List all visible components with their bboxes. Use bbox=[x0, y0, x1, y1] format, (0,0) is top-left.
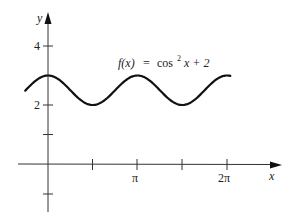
chart-canvas: y x 4 2 π 2π f(x) = cos 2 x + 2 bbox=[0, 0, 293, 220]
y-tick-label-4: 4 bbox=[34, 39, 40, 53]
function-curve bbox=[25, 76, 230, 106]
x-tick-label-pi: π bbox=[132, 171, 138, 185]
formula-exponent: 2 bbox=[177, 54, 181, 63]
formula-cos: cos bbox=[157, 56, 173, 70]
y-tick-label-2: 2 bbox=[34, 98, 40, 112]
chart-title: f(x) = cos 2 x + 2 bbox=[118, 54, 209, 70]
formula-rest: x + 2 bbox=[183, 56, 209, 70]
x-axis bbox=[18, 164, 272, 165]
y-axis-label: y bbox=[36, 11, 43, 25]
x-axis-label: x bbox=[268, 169, 275, 183]
x-tick-label-2pi: 2π bbox=[218, 171, 230, 185]
y-axis-arrow-icon bbox=[45, 12, 52, 24]
x-axis-arrow-icon bbox=[270, 162, 282, 169]
formula-equals: = bbox=[143, 56, 150, 70]
formula-fx: f(x) bbox=[118, 56, 135, 70]
